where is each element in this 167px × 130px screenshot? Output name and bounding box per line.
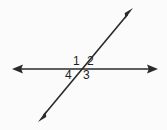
angle-label-3: 3 — [83, 69, 90, 81]
geometry-figure: 1 2 3 4 — [0, 0, 167, 130]
transversal-line-bottom-left-arrowhead — [38, 111, 51, 122]
angle-label-1: 1 — [73, 55, 80, 67]
transversal-line — [38, 8, 133, 122]
angle-label-2: 2 — [87, 55, 94, 67]
transversal-line-top-right-arrowhead — [120, 8, 133, 19]
angle-label-4: 4 — [65, 69, 72, 81]
transversal-line-segment — [44, 15, 128, 116]
intersecting-lines-drawing — [0, 0, 167, 130]
